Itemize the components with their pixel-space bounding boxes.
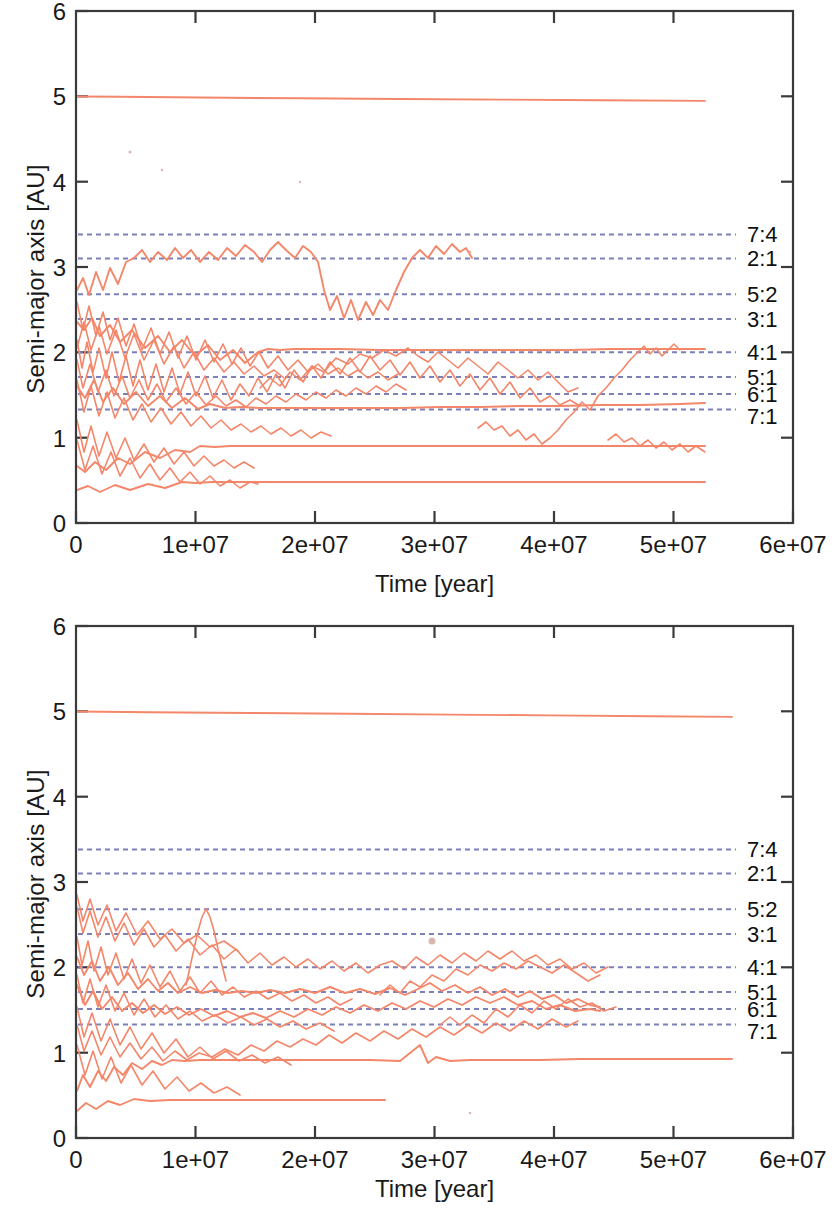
noise-speck	[429, 938, 436, 945]
resonance-label-7-1: 7:1	[747, 1019, 778, 1044]
resonance-label-7-4: 7:4	[747, 222, 778, 247]
resonance-label-5-2: 5:2	[747, 282, 778, 307]
noise-speck	[469, 1112, 472, 1115]
x-tick-label-3: 3e+07	[401, 1146, 468, 1173]
trajectory-chaotic-band-f	[77, 440, 258, 488]
resonance-label-2-1: 2:1	[747, 861, 778, 886]
y-tick-label-2: 2	[53, 954, 66, 981]
x-tick-label-3: 3e+07	[401, 531, 468, 558]
figure-semimajor-axis-evolution: 0 1 2 3 4 5 6 0 1e+07 2e+07 3e+07 4e+07 …	[0, 0, 836, 1211]
x-tickmarks	[76, 511, 793, 523]
panel-bottom: 0 1 2 3 4 5 6 0 1e+07 2e+07 3e+07 4e+07 …	[0, 605, 836, 1210]
resonance-label-7-4: 7:4	[747, 837, 778, 862]
trajectory-chaotic-band-b	[77, 302, 398, 380]
x-tick-label-2: 2e+07	[281, 1146, 348, 1173]
resonance-label-3-1: 3:1	[747, 922, 778, 947]
x-tick-label-0: 0	[69, 531, 82, 558]
y-tick-label-3: 3	[53, 254, 66, 281]
noise-speck	[161, 169, 163, 171]
trajectory-truncated-038au	[77, 1099, 385, 1111]
x-tickmarks	[76, 1126, 793, 1138]
x-tick-label-6: 6e+07	[759, 1146, 826, 1173]
resonance-label-4-1: 4:1	[747, 340, 778, 365]
x-tickmarks-top	[196, 626, 674, 638]
trajectory-excursion-a	[380, 961, 600, 995]
y-tick-label-0: 0	[53, 510, 66, 537]
y-tick-label-1: 1	[53, 425, 66, 452]
y-tick-label-5: 5	[53, 698, 66, 725]
plot-area-top: 0 1 2 3 4 5 6 0 1e+07 2e+07 3e+07 4e+07 …	[0, 0, 836, 605]
x-tickmarks-top	[196, 11, 674, 23]
x-tick-label-0: 0	[69, 1146, 82, 1173]
trajectory-giant-planet	[77, 712, 732, 717]
y-tick-label-6: 6	[53, 0, 66, 25]
trajectory-resonance-hopper-31au	[77, 242, 472, 320]
resonance-label-3-1: 3:1	[747, 307, 778, 332]
trajectory-survivor-047au	[77, 482, 705, 492]
trajectory-chaotic-upper-2au	[77, 907, 608, 973]
x-tick-label-1: 1e+07	[162, 531, 229, 558]
x-tick-label-2: 2e+07	[281, 531, 348, 558]
y-tick-label-4: 4	[53, 784, 66, 811]
y-tickmarks-right	[781, 711, 793, 1052]
y-axis-label: Semi-major axis [AU]	[22, 139, 50, 419]
x-tick-label-5: 5e+07	[640, 1146, 707, 1173]
y-tick-label-2: 2	[53, 339, 66, 366]
x-tick-label-4: 4e+07	[520, 531, 587, 558]
y-tick-label-6: 6	[53, 613, 66, 640]
x-tick-label-5: 5e+07	[640, 531, 707, 558]
resonance-label-4-1: 4:1	[747, 955, 778, 980]
noise-speck	[129, 151, 132, 154]
x-tick-label-4: 4e+07	[520, 1146, 587, 1173]
resonance-lines	[78, 850, 736, 1025]
x-axis-label: Time [year]	[76, 1175, 793, 1203]
trajectory-scattered-late-tail	[608, 434, 705, 452]
y-tickmarks-right	[781, 96, 793, 437]
resonance-label-2-1: 2:1	[747, 246, 778, 271]
plot-area-bottom: 0 1 2 3 4 5 6 0 1e+07 2e+07 3e+07 4e+07 …	[0, 605, 836, 1210]
y-tick-label-1: 1	[53, 1040, 66, 1067]
panel-top: 0 1 2 3 4 5 6 0 1e+07 2e+07 3e+07 4e+07 …	[0, 0, 836, 605]
y-tick-label-5: 5	[53, 83, 66, 110]
y-tick-label-3: 3	[53, 869, 66, 896]
y-tick-label-0: 0	[53, 1125, 66, 1152]
trajectory-excursion-up-1e7	[186, 909, 226, 985]
resonance-label-7-1: 7:1	[747, 404, 778, 429]
noise-speck	[469, 251, 472, 254]
y-tick-label-4: 4	[53, 169, 66, 196]
resonance-label-5-2: 5:2	[747, 897, 778, 922]
trajectories-bottom	[77, 712, 732, 1115]
y-axis-label: Semi-major axis [AU]	[22, 744, 50, 1024]
trajectory-giant-planet	[77, 97, 705, 101]
noise-speck	[299, 181, 301, 183]
x-axis-label: Time [year]	[76, 570, 793, 598]
x-tick-label-1: 1e+07	[162, 1146, 229, 1173]
trajectory-chaotic-rising	[260, 348, 578, 392]
x-tick-label-6: 6e+07	[759, 531, 826, 558]
